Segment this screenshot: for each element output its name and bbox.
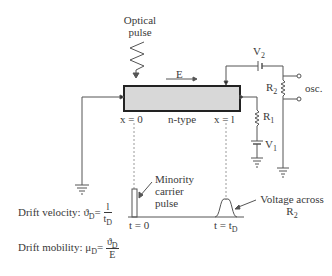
left-wire — [82, 95, 124, 185]
resistor-icon-r1 — [255, 110, 259, 141]
voltage-pulse — [215, 199, 237, 217]
voltage-across-label: Voltage across R2 — [252, 193, 332, 219]
label-v1: V1 — [265, 138, 277, 152]
time-zero-label: t = 0 — [129, 219, 149, 231]
minority-carrier-pulse — [132, 189, 137, 217]
optical-pulse-icon — [130, 42, 144, 78]
label-osc: osc. — [305, 82, 322, 94]
ground-icon-r2 — [277, 168, 289, 177]
label-r1: R1 — [263, 110, 274, 124]
fraction: l tD — [104, 202, 113, 225]
label-v2: V2 — [253, 45, 265, 59]
optical-label-line2: pulse — [120, 26, 160, 38]
resistor-icon-r2 — [281, 80, 285, 168]
battery-icon-v2 — [258, 61, 262, 71]
minority-carrier-label: Minority carrier pulse — [155, 173, 194, 209]
circuit-drawing — [0, 0, 332, 276]
oscilloscope-terminals — [283, 74, 301, 101]
ground-icon-left — [75, 185, 89, 194]
haynes-shockley-diagram: Optical pulse E x = 0 n-type x = l V2 R2… — [0, 0, 332, 276]
drift-mobility-equation: Drift mobility: μD= ϑD E — [18, 237, 119, 260]
fraction: ϑD E — [106, 237, 119, 260]
optical-pulse-label: Optical pulse — [120, 14, 160, 38]
n-type-sample — [124, 86, 240, 111]
label-r2: R2 — [266, 81, 277, 95]
time-drift-label: t = tD — [214, 219, 238, 233]
optical-label-line1: Optical — [120, 14, 160, 26]
drift-velocity-equation: Drift velocity: ϑD= l tD — [18, 202, 112, 225]
ground-icon-v1 — [251, 158, 263, 167]
field-label: E — [176, 68, 183, 80]
position-label-left: x = 0 — [120, 113, 143, 125]
right-wire — [240, 95, 257, 110]
position-label-right: x = l — [214, 113, 234, 125]
battery-icon-v1 — [251, 141, 263, 158]
sample-type-label: n-type — [168, 113, 196, 125]
